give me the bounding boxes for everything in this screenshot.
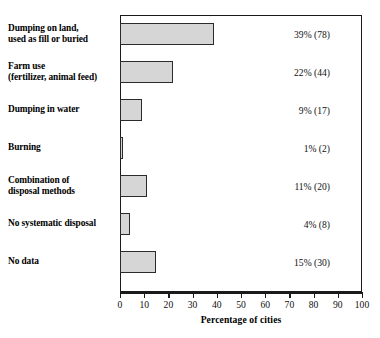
category-label-line2: used as fill or buried (8, 34, 116, 45)
bar (120, 175, 147, 197)
bar-value-label: 22% (44) (230, 67, 330, 78)
x-axis-title: Percentage of cities (120, 314, 362, 325)
bar-row: Dumping in water9% (17) (0, 91, 380, 129)
x-axis-tick (362, 292, 363, 298)
x-axis-tick (241, 292, 242, 298)
bar-value-label: 15% (30) (230, 257, 330, 268)
bar-row: Burning1% (2) (0, 129, 380, 167)
category-label-line1: Burning (8, 142, 41, 152)
category-label-line1: No data (8, 256, 39, 266)
bar (120, 213, 130, 235)
bar-value-label: 11% (20) (230, 181, 330, 192)
bar-chart-figure: Dumping on land,used as fill or buried39… (0, 0, 380, 338)
x-axis-tick (120, 292, 121, 298)
bar-row: Farm use(fertilizer, animal feed)22% (44… (0, 53, 380, 91)
x-axis-tick (217, 292, 218, 298)
bar-row: Dumping on land,used as fill or buried39… (0, 15, 380, 53)
category-label: Farm use(fertilizer, animal feed) (8, 61, 116, 84)
category-label-line1: No systematic disposal (8, 218, 96, 228)
bar (120, 99, 142, 121)
bar-value-label: 39% (78) (230, 29, 330, 40)
category-label: No systematic disposal (8, 218, 116, 229)
bar-row: No data15% (30) (0, 243, 380, 281)
x-axis-tick (338, 292, 339, 298)
x-axis-tick (289, 292, 290, 298)
x-axis-tick-label: 100 (347, 299, 377, 310)
category-label-line2: (fertilizer, animal feed) (8, 72, 116, 83)
category-label-line1: Dumping on land, (8, 23, 79, 33)
category-label-line1: Dumping in water (8, 104, 79, 114)
bar-value-label: 1% (2) (230, 143, 330, 154)
bar (120, 23, 214, 45)
x-axis-tick (314, 292, 315, 298)
x-axis-tick (168, 292, 169, 298)
category-label-line1: Farm use (8, 61, 45, 71)
bar-value-label: 9% (17) (230, 105, 330, 116)
category-label: No data (8, 256, 116, 267)
category-label: Burning (8, 142, 116, 153)
category-label-line1: Combination of (8, 175, 69, 185)
bar-value-label: 4% (8) (230, 219, 330, 230)
category-label: Combination ofdisposal methods (8, 175, 116, 198)
category-label: Dumping on land,used as fill or buried (8, 23, 116, 46)
bar-row: No systematic disposal4% (8) (0, 205, 380, 243)
x-axis-tick (144, 292, 145, 298)
bar (120, 137, 123, 159)
x-axis-tick (265, 292, 266, 298)
category-label-line2: disposal methods (8, 186, 116, 197)
bar (120, 61, 173, 83)
x-axis-tick (193, 292, 194, 298)
bar-row: Combination ofdisposal methods11% (20) (0, 167, 380, 205)
category-label: Dumping in water (8, 104, 116, 115)
bar (120, 251, 156, 273)
